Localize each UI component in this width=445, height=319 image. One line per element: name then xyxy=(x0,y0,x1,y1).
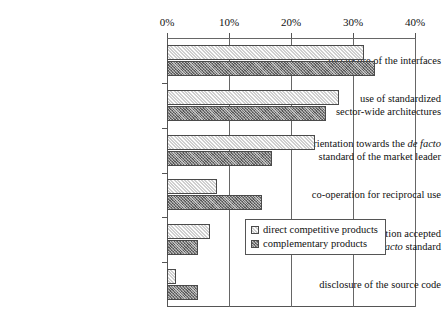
bar-complementary xyxy=(167,285,198,300)
bar-complementary xyxy=(167,240,198,255)
legend-label: complementary products xyxy=(263,238,367,250)
x-axis-tick-label: 20% xyxy=(271,16,311,28)
y-axis-category-label: disclosure of the source code xyxy=(285,278,445,291)
x-axis-tick-label: 30% xyxy=(333,16,373,28)
bar-chart: 0%10%20%30%40% disclosure of the interfa… xyxy=(0,0,445,319)
gridline xyxy=(229,38,230,307)
y-axis-tick-mark xyxy=(162,173,167,174)
y-axis-tick-mark xyxy=(162,83,167,84)
x-axis-tick-mark xyxy=(291,33,292,38)
gridline xyxy=(415,38,416,307)
x-axis-tick-mark xyxy=(167,33,168,38)
x-axis-tick-mark xyxy=(353,33,354,38)
x-axis-tick-label: 10% xyxy=(209,16,249,28)
bar-direct-competitive xyxy=(167,45,364,60)
bar-direct-competitive xyxy=(167,269,176,284)
x-axis-tick-label: 40% xyxy=(395,16,435,28)
bar-direct-competitive xyxy=(167,179,217,194)
bar-direct-competitive xyxy=(167,135,315,150)
y-axis-tick-mark xyxy=(162,262,167,263)
bar-complementary xyxy=(167,106,326,121)
bar-complementary xyxy=(167,61,375,76)
bar-direct-competitive xyxy=(167,90,339,105)
x-axis-tick-label: 0% xyxy=(147,16,187,28)
legend-item: direct competitive products xyxy=(251,223,378,237)
legend-label: direct competitive products xyxy=(263,224,378,236)
x-axis-tick-mark xyxy=(415,33,416,38)
bar-direct-competitive xyxy=(167,224,210,239)
y-axis-category-label: co-operation for reciprocal use xyxy=(285,188,445,201)
legend-item: complementary products xyxy=(251,237,378,251)
gridline xyxy=(353,38,354,307)
x-axis-tick-mark xyxy=(229,33,230,38)
y-axis-tick-mark xyxy=(162,217,167,218)
y-axis-tick-mark xyxy=(162,128,167,129)
legend-swatch-icon xyxy=(251,240,259,248)
legend-swatch-icon xyxy=(251,226,259,234)
gridline xyxy=(291,38,292,307)
bar-complementary xyxy=(167,151,272,166)
chart-legend: direct competitive productscomplementary… xyxy=(245,219,386,255)
bar-complementary xyxy=(167,195,262,210)
